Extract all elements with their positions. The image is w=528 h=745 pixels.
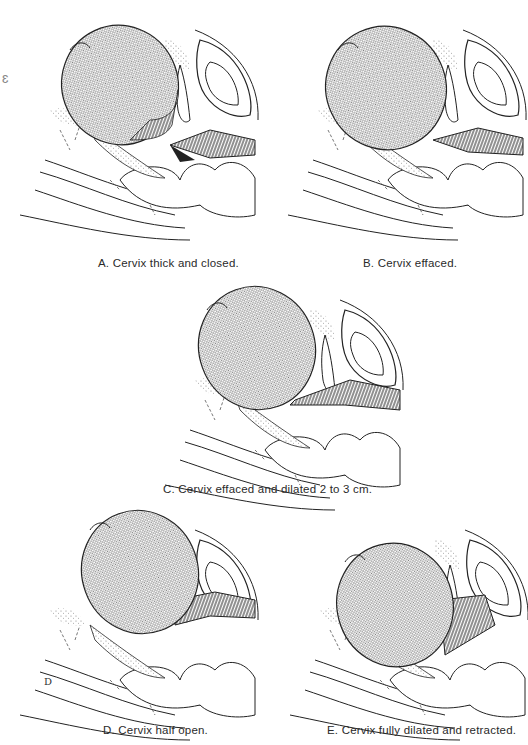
panel-c: C. Cervix effaced and dilated 2 to 3 cm. [145, 270, 405, 500]
panel-b: B. Cervix effaced. [268, 0, 528, 270]
pelvis-diagram-a [0, 0, 260, 250]
panel-e: E. Cervix fully dilated and retracted. [270, 500, 528, 745]
panel-d: D D. Cervix half open. [0, 500, 260, 745]
pelvis-diagram-b [268, 0, 528, 250]
panel-a: ɛ A. Cervix thick and closed. [0, 0, 260, 270]
artist-signature: D [44, 676, 52, 687]
fetal-head [305, 6, 466, 169]
fetal-head [64, 494, 215, 650]
caption-e: E. Cervix fully dilated and retracted. [327, 724, 516, 736]
caption-b: B. Cervix effaced. [363, 257, 457, 269]
caption-c: C. Cervix effaced and dilated 2 to 3 cm. [163, 483, 372, 495]
pelvis-diagram-d: D [0, 500, 260, 710]
caption-d: D. Cervix half open. [103, 724, 208, 736]
pelvis-diagram-e [270, 500, 528, 710]
pelvis-diagram-c [145, 270, 405, 485]
caption-a: A. Cervix thick and closed. [98, 257, 239, 269]
